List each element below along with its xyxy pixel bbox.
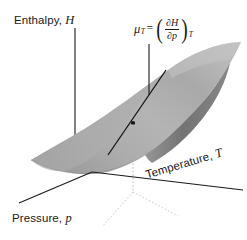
fraction-denominator: ∂p [166, 30, 178, 42]
fraction-numerator: ∂H [165, 17, 179, 29]
enthalpy-axis-label-text: Enthalpy, [14, 14, 65, 26]
mu-symbol: μ [134, 23, 140, 36]
partial-derivative-fraction: ∂H ∂p [164, 17, 179, 41]
equals-sign: = [146, 23, 153, 35]
temperature-projection-guide [102, 192, 133, 227]
plot-canvas [0, 0, 247, 240]
mu-subscript: T [141, 28, 145, 36]
pressure-axis-line [19, 172, 92, 203]
pressure-axis-label: Pressure, p [12, 211, 72, 226]
enthalpy-axis-label: Enthalpy, H [14, 13, 74, 28]
joule-thomson-coefficient-formula: μT = ( ∂H ∂p )T [134, 17, 193, 41]
pressure-axis-label-text: Pressure, [12, 212, 65, 224]
pressure-symbol: p [65, 211, 71, 225]
constant-temperature-subscript: T [189, 31, 193, 39]
enthalpy-symbol: H [65, 13, 74, 27]
left-paren: ( [157, 18, 163, 40]
enthalpy-surface-figure: Enthalpy, H Temperature, T Pressure, p μ… [0, 0, 247, 240]
pressure-projection-guide [133, 192, 178, 216]
right-paren: ) [181, 18, 187, 40]
